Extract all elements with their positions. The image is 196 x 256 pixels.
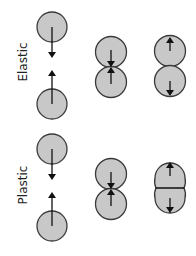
elastic-label: Elastic	[16, 42, 30, 81]
collision-diagram: Elastic Plastic	[0, 0, 196, 256]
elastic-approach	[37, 12, 67, 119]
plastic-contact	[96, 159, 127, 220]
elastic-contact	[96, 37, 127, 98]
plastic-merged	[155, 163, 186, 213]
plastic-row: Plastic	[16, 134, 185, 241]
plastic-approach	[37, 134, 67, 241]
elastic-row: Elastic	[16, 12, 186, 119]
elastic-rebound	[155, 36, 186, 97]
plastic-label: Plastic	[16, 166, 30, 205]
